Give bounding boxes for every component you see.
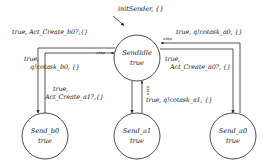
edge-label-send-idle-to-send-a0-line2: Act_Create_a0?, {} <box>165 63 231 71</box>
edge-label-send-idle-to-send-a1-line2: Act_Create_a1?,{} <box>45 93 104 101</box>
edge-label-send-idle-to-send-a1: true, Act_Create_a1?,{} <box>53 85 104 101</box>
edge-label-send-idle-to-send-a0-line1: true, <box>165 55 231 63</box>
edge-label-send-idle-to-send-a1-line1: true, <box>53 85 104 93</box>
state-label-send-a1: Send_a1 true <box>107 127 167 146</box>
state-name-send-idle: SendIdle <box>107 49 167 59</box>
edge-label-send-b0-to-send-idle: true, q!cotask_b0, {} <box>24 55 80 71</box>
state-invariant-send-a1: true <box>107 137 167 147</box>
state-label-send-a0: Send_a0 true <box>203 127 263 146</box>
state-invariant-send-b0: true <box>15 137 75 147</box>
edge-label-send-idle-to-send-b0: true, Act_Create_b0?,{} <box>12 29 88 36</box>
edge-initial-to-send-idle[interactable] <box>113 16 124 26</box>
sync-tag-send-a1-to-send-idle: assp <box>146 86 150 95</box>
state-name-send-b0: Send_b0 <box>15 127 75 137</box>
edge-label-send-b0-to-send-idle-line2: q!cotask_b0, {} <box>24 63 80 71</box>
sync-tag-send-b0-to-send-idle: assp <box>96 51 105 55</box>
edge-label-send-a1-to-send-idle: true, q!cotask_a1, {} <box>146 97 212 104</box>
edge-label-send-idle-to-send-a0: true, Act_Create_a0?, {} <box>165 55 231 71</box>
edge-label-initial: initSender, {} <box>118 6 164 13</box>
state-label-send-b0: Send_b0 true <box>15 127 75 146</box>
state-invariant-send-idle: true <box>107 59 167 69</box>
state-invariant-send-a0: true <box>203 137 263 147</box>
sync-tag-send-a0-to-send-idle: assp <box>163 37 172 41</box>
state-name-send-a1: Send_a1 <box>107 127 167 137</box>
edge-label-send-b0-to-send-idle-line1: true, <box>24 55 80 63</box>
state-name-send-a0: Send_a0 <box>203 127 263 137</box>
diagram-canvas: SendIdle true Send_b0 true Send_a1 true … <box>0 0 278 163</box>
state-label-send-idle: SendIdle true <box>107 49 167 68</box>
edge-label-send-a0-to-send-idle: true, q!cotask_a0, {} <box>176 29 242 36</box>
